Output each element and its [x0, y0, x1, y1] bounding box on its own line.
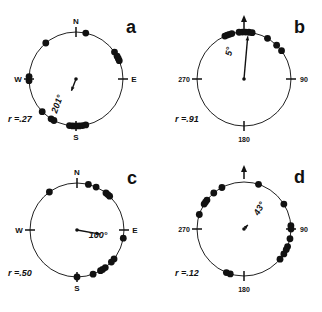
data-point [223, 269, 230, 276]
data-point [97, 267, 104, 274]
axis-label-top: N [73, 17, 79, 26]
data-point [120, 235, 127, 242]
panel-letter: b [294, 17, 305, 37]
data-point [51, 117, 58, 124]
r-value-label: r =.12 [175, 268, 199, 278]
data-point [264, 35, 271, 42]
data-point [82, 122, 89, 129]
data-point [116, 57, 123, 64]
north-arrow-icon [241, 15, 247, 22]
axis-label-left: 270 [178, 226, 190, 233]
data-point [196, 211, 203, 218]
data-point [108, 259, 115, 266]
data-point [210, 190, 217, 197]
axis-label-right: 90 [300, 76, 308, 83]
panel-letter: a [126, 17, 137, 37]
axis-label-bottom: 180 [238, 136, 250, 143]
axis-label-bottom: 180 [238, 286, 250, 293]
axis-label-top: N [74, 168, 80, 177]
data-point [278, 47, 285, 54]
data-point [85, 181, 92, 188]
axis-label-right: E [131, 75, 137, 84]
mean-angle-label: 201° [49, 93, 65, 115]
mean-vector-arrowhead-icon [71, 86, 74, 90]
mean-angle-label: 43° [251, 200, 267, 218]
panel-a: NESW201°r =.27a [8, 17, 137, 142]
data-point [74, 274, 81, 281]
data-point [82, 30, 89, 37]
data-point [93, 184, 100, 191]
data-point [219, 184, 226, 191]
panel-b: 901802705°r =.91b [175, 15, 308, 143]
data-point [280, 201, 287, 208]
mean-vector [244, 36, 248, 79]
data-point [26, 73, 33, 80]
axis-label-left: W [14, 75, 22, 84]
r-value-label: r =.27 [8, 114, 33, 124]
data-point [42, 40, 49, 47]
data-point [46, 189, 53, 196]
data-point [255, 181, 262, 188]
circular-statistics-figure: NESW201°r =.27a901802705°r =.91bNESW100°… [0, 0, 322, 312]
data-point [273, 42, 280, 49]
data-point [287, 235, 294, 242]
panel-letter: d [294, 167, 305, 187]
axis-label-bottom: S [74, 284, 80, 293]
data-point [39, 108, 46, 115]
mean-angle-label: 100° [89, 230, 108, 240]
data-point [228, 30, 235, 37]
data-point [249, 29, 256, 36]
axis-label-right: 90 [300, 226, 308, 233]
mean-angle-label: 5° [223, 46, 234, 57]
r-value-label: r =.91 [175, 114, 199, 124]
data-point [277, 256, 284, 263]
panel-d: 9018027043°r =.12d [175, 165, 308, 293]
data-point [288, 226, 295, 233]
panel-letter: c [127, 168, 137, 188]
axis-label-bottom: S [73, 133, 79, 142]
axis-label-left: 270 [178, 76, 190, 83]
data-point [106, 193, 113, 200]
axis-label-left: W [15, 226, 23, 235]
data-point [90, 271, 97, 278]
panel-c: NESW100°r =.50c [8, 168, 138, 293]
axis-label-right: E [132, 226, 138, 235]
data-point [201, 201, 208, 208]
north-arrow-icon [241, 165, 247, 172]
r-value-label: r =.50 [8, 268, 32, 278]
